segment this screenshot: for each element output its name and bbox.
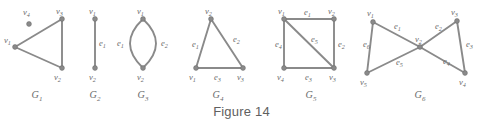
- graph-g6: v1v2v3v4v5e1e2e3e4e5e6G6: [360, 7, 473, 103]
- edge-label: e1: [304, 7, 311, 18]
- vertex-label: v2: [205, 6, 212, 17]
- edge: [457, 21, 465, 73]
- edge-label: e1: [192, 39, 199, 50]
- vertex-dot: [332, 17, 337, 22]
- edge-label: e4: [443, 56, 450, 67]
- vertex-dot: [27, 22, 32, 27]
- figure-14-container: v1v2v3v4G1v1v2e1G2v1v2e1e2G3v1v2v3e1e2e3…: [0, 0, 483, 129]
- edge-label: e3: [466, 39, 473, 50]
- graph-name-label: G5: [306, 89, 317, 103]
- edge-labels-g3: e1e2: [117, 38, 168, 49]
- vertex-label: v3: [329, 72, 336, 83]
- edges-g6: [367, 21, 465, 73]
- edge: [367, 47, 420, 73]
- graph-g5: v1v2v3v4e1e2e3e4e5G5: [275, 6, 345, 103]
- vertex-label: v4: [23, 7, 30, 18]
- edges-g3: [130, 19, 156, 68]
- edge-label: e3: [305, 72, 312, 83]
- vertex-label: v1: [278, 6, 285, 17]
- vertex-label: v1: [367, 8, 374, 19]
- graph-name-label: G1: [32, 89, 43, 103]
- edge-label: e1: [99, 38, 106, 49]
- vertex-label: v2: [54, 72, 61, 83]
- edge-label: e3: [214, 72, 221, 83]
- figure-caption: Figure 14: [0, 104, 483, 119]
- vertex-label: v2: [137, 72, 144, 83]
- vertex-dot: [371, 20, 376, 25]
- vertex-dot: [60, 66, 65, 71]
- vertex-label: v1: [4, 35, 11, 46]
- vertex-dot: [463, 71, 468, 76]
- graph-name-label: G3: [138, 89, 149, 103]
- vertex-dot: [455, 19, 460, 24]
- edge-label: e2: [338, 39, 345, 50]
- vertices-g3: [141, 17, 146, 71]
- edges-g1: [15, 19, 62, 68]
- vertex-dot: [13, 45, 18, 50]
- edge-label: e6: [363, 39, 371, 50]
- graph-g3: v1v2e1e2G3: [117, 6, 168, 103]
- vertex-dot: [282, 17, 287, 22]
- graph-g2: v1v2e1G2: [89, 6, 106, 103]
- edge-label: e1: [394, 21, 401, 32]
- vertex-dot: [282, 66, 287, 71]
- edge-label: e2: [233, 34, 240, 45]
- edge-label: e1: [117, 38, 124, 49]
- graph-name-label: G6: [415, 89, 426, 103]
- vertex-label: v3: [56, 6, 63, 17]
- vertex-label: v1: [89, 6, 96, 17]
- vertex-dot: [141, 17, 146, 22]
- edges-g5: [284, 19, 334, 68]
- vertex-label: v3: [237, 72, 244, 83]
- graph-g1: v1v2v3v4G1: [4, 6, 64, 103]
- vertex-label: v2: [89, 72, 96, 83]
- graphs-layer: v1v2v3v4G1v1v2e1G2v1v2e1e2G3v1v2v3e1e2e3…: [4, 6, 473, 103]
- vertex-label: v2: [415, 34, 422, 45]
- edge: [15, 19, 62, 47]
- vertex-dot: [93, 66, 98, 71]
- graph-g4: v1v2v3e1e2e3G4: [189, 6, 245, 103]
- vertex-label: v1: [137, 6, 144, 17]
- edge-label: e5: [311, 34, 318, 45]
- edge-label: e2: [161, 38, 168, 49]
- vertex-labels-g1: v1v2v3v4: [4, 6, 63, 83]
- vertex-dot: [60, 17, 65, 22]
- vertex-dot: [418, 45, 423, 50]
- graph-name-label: G2: [90, 89, 101, 103]
- edge-label: e4: [275, 39, 282, 50]
- vertex-labels-g6: v1v2v3v4v5: [360, 7, 466, 88]
- edge-labels-g2: e1: [99, 38, 106, 49]
- vertex-label: v1: [189, 72, 196, 83]
- vertex-dot: [241, 66, 246, 71]
- vertex-label: v5: [360, 77, 367, 88]
- graph-name-label: G4: [213, 89, 224, 103]
- vertex-label: v4: [277, 72, 284, 83]
- vertex-dot: [365, 71, 370, 76]
- edge: [15, 47, 62, 68]
- vertex-dot: [141, 66, 146, 71]
- vertex-label: v2: [328, 6, 335, 17]
- vertex-label: v3: [451, 7, 458, 18]
- vertex-label: v4: [459, 77, 466, 88]
- edge: [130, 19, 143, 68]
- vertex-dot: [93, 17, 98, 22]
- edge: [284, 19, 334, 68]
- edge: [143, 19, 156, 68]
- vertex-dot: [194, 66, 199, 71]
- vertex-dot: [209, 17, 214, 22]
- edge-label: e2: [435, 21, 442, 32]
- edge-label: e5: [396, 57, 403, 68]
- vertex-dot: [332, 66, 337, 71]
